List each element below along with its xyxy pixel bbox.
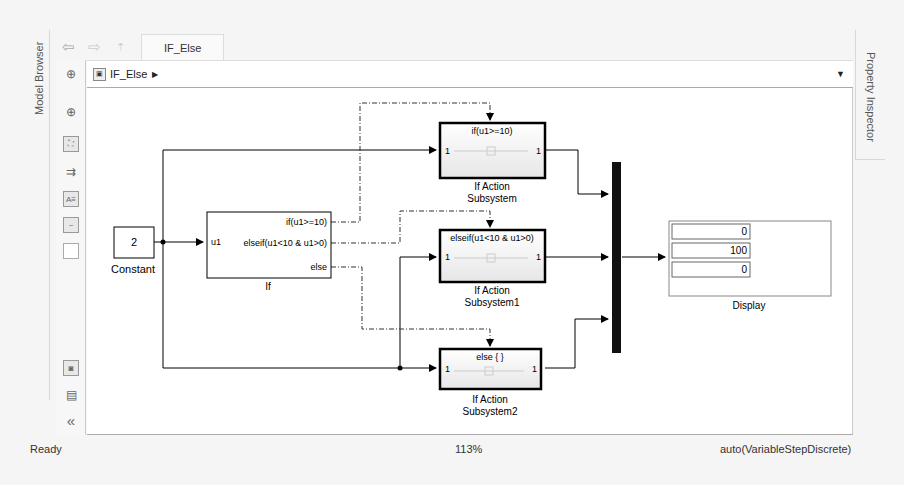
if-label: If: [265, 281, 271, 292]
display-value: 0: [741, 226, 747, 237]
tab-if-else[interactable]: IF_Else: [141, 34, 224, 61]
constant-value: 2: [131, 236, 137, 248]
subsystem-label-1: If Action: [472, 394, 508, 405]
subsystem-out-port: 1: [532, 364, 537, 374]
explorer-bar: ⇦ ⇨ ⇡ IF_Else: [55, 33, 855, 61]
simulink-window: Model Browser Property Inspector ⇦ ⇨ ⇡ I…: [0, 0, 904, 485]
breadcrumb: ▣ IF_Else ▶ ▼: [87, 60, 853, 88]
breadcrumb-dropdown-icon[interactable]: ▼: [836, 69, 845, 79]
report-icon[interactable]: ▤: [63, 387, 79, 403]
display-label: Display: [733, 300, 766, 311]
if-output-elseif: elseif(u1<10 & u1>0): [243, 238, 327, 248]
forward-arrow-icon[interactable]: ⇨: [81, 37, 107, 57]
if-action-subsystem2[interactable]: else { } 1 1 If Action Subsystem2: [440, 349, 541, 417]
display-block[interactable]: 0 100 0 Display: [669, 221, 831, 311]
back-arrow-icon[interactable]: ⇦: [55, 37, 81, 57]
subsystem-label-1: If Action: [474, 285, 510, 296]
if-block[interactable]: u1 if(u1>=10) elseif(u1<10 & u1>0) else …: [207, 212, 331, 292]
hide-show-explorer-icon[interactable]: ⊕: [63, 66, 79, 82]
collapse-icon[interactable]: «: [63, 412, 79, 428]
model-browser-tab[interactable]: Model Browser: [30, 38, 48, 118]
if-action-subsystem[interactable]: if(u1>=10) 1 1 If Action Subsystem: [440, 123, 545, 204]
annotation-icon[interactable]: A≡: [63, 191, 79, 207]
block-diagram: 2 Constant u1 if(u1>=10) elseif(u1<10 & …: [87, 88, 853, 435]
subsystem-label-1: If Action: [474, 181, 510, 192]
subsystem-in-port: 1: [445, 364, 450, 374]
subsystem-in-port: 1: [445, 146, 450, 156]
branch-point: [398, 366, 403, 371]
subsystem-label-2: Subsystem: [467, 193, 516, 204]
area-icon[interactable]: [63, 243, 79, 259]
signal-flow-icon[interactable]: ⇉: [63, 164, 79, 180]
model-canvas[interactable]: 2 Constant u1 if(u1>=10) elseif(u1<10 & …: [87, 88, 853, 435]
subsystem-condition: else { }: [476, 352, 504, 362]
model-icon: ▣: [93, 68, 106, 81]
constant-label: Constant: [111, 263, 155, 275]
subsystem-out-port: 1: [536, 146, 541, 156]
breadcrumb-path[interactable]: IF_Else: [110, 68, 147, 80]
display-value: 0: [741, 264, 747, 275]
image-icon[interactable]: ~: [63, 217, 79, 233]
status-state: Ready: [30, 443, 62, 455]
mux-block[interactable]: [612, 162, 621, 353]
subsystem-label-2: Subsystem1: [464, 297, 519, 308]
canvas-toolbar: ⊕ ⊕ ⛶ ⇉ A≡ ~ ◙ ▤ «: [56, 60, 86, 435]
subsystem-out-port: 1: [536, 252, 541, 262]
status-zoom: 113%: [455, 443, 482, 455]
screenshot-icon[interactable]: ◙: [63, 360, 79, 376]
subsystem-label-2: Subsystem2: [462, 406, 517, 417]
up-to-parent-icon[interactable]: ⇡: [107, 37, 133, 57]
zoom-icon[interactable]: ⊕: [63, 104, 79, 120]
if-output-else: else: [310, 262, 327, 272]
subsystem-condition: if(u1>=10): [471, 126, 512, 136]
display-value: 100: [730, 245, 747, 256]
status-solver: auto(VariableStepDiscrete): [720, 443, 851, 455]
if-action-subsystem1[interactable]: elseif(u1<10 & u1>0) 1 1 If Action Subsy…: [440, 230, 545, 308]
fit-to-view-icon[interactable]: ⛶: [63, 136, 79, 152]
if-input-port: u1: [211, 237, 221, 247]
subsystem-condition: elseif(u1<10 & u1>0): [450, 233, 534, 243]
subsystem-in-port: 1: [445, 252, 450, 262]
if-output-if: if(u1>=10): [286, 217, 327, 227]
constant-block[interactable]: 2 Constant: [111, 227, 155, 275]
breadcrumb-arrow-icon[interactable]: ▶: [152, 70, 158, 79]
branch-point: [161, 240, 166, 245]
property-inspector-tab[interactable]: Property Inspector: [862, 42, 880, 152]
